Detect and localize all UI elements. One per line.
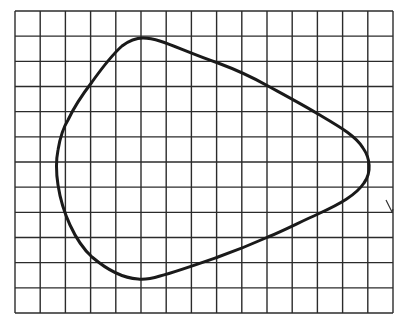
grid-lines: [15, 11, 393, 313]
closed-curve: [57, 38, 370, 279]
check-mark: [386, 200, 393, 212]
grid-diagram: [0, 0, 408, 322]
